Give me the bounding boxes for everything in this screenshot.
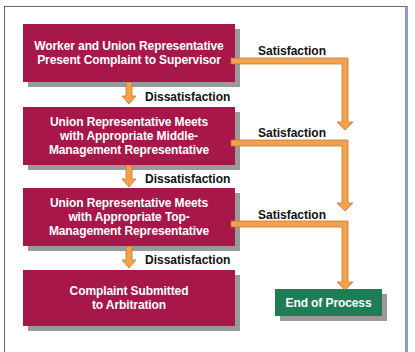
satisfaction-label-3: Satisfaction: [258, 208, 326, 222]
satisfaction-label-2: Satisfaction: [258, 126, 326, 140]
satisfaction-label-1: Satisfaction: [258, 44, 326, 58]
